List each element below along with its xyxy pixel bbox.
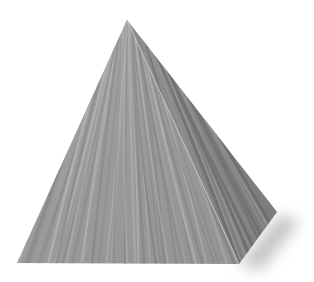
pyramid-scene	[0, 0, 314, 282]
pyramid-illustration	[0, 0, 314, 282]
